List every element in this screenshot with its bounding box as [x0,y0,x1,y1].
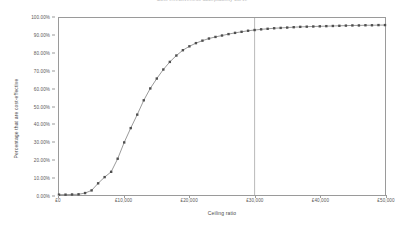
data-point-marker [90,189,92,191]
data-point-marker [221,34,223,36]
data-point-marker [260,28,262,30]
y-tick-label: 70.00% [34,68,50,73]
data-point-marker [273,27,275,29]
y-tick-label: 80.00% [34,50,50,55]
data-point-marker [71,193,73,195]
data-point-marker [325,25,327,27]
data-point-marker [188,45,190,47]
data-point-marker [64,193,66,195]
y-tick-mark [52,34,55,35]
data-point-marker [136,113,138,115]
data-point-marker [169,61,171,63]
y-tick-label: 20.00% [34,158,50,163]
y-tick-label: 30.00% [34,140,50,145]
y-tick-label: 50.00% [34,104,50,109]
data-point-marker [175,54,177,56]
data-point-marker [332,25,334,27]
chart-figure: Cost-effectiveness acceptability curve P… [0,0,404,228]
data-point-marker [195,42,197,44]
x-axis-tick-labels: £0£10,000£20,000£30,000£40,000£50,000 [58,198,386,208]
series-line [59,25,385,195]
y-tick-mark [52,178,55,179]
x-tick-mark [124,195,125,198]
x-tick-label: £0 [55,198,60,204]
data-point-marker [97,182,99,184]
y-tick-mark [52,124,55,125]
series-canvas [59,18,385,195]
data-point-marker [227,33,229,35]
y-tick-label: 40.00% [34,122,50,127]
plot-inner [59,18,385,195]
y-tick-mark [52,52,55,53]
x-axis-title: Ceiling ratio [58,210,386,217]
y-tick-mark [52,160,55,161]
x-tick-mark [386,195,387,198]
x-tick-label: £10,000 [115,198,132,204]
y-tick-label: 10.00% [34,176,50,181]
data-point-marker [149,87,151,89]
data-point-marker [306,25,308,27]
data-point-marker [123,141,125,143]
x-tick-label: £30,000 [246,198,263,204]
data-point-marker [371,24,373,26]
data-point-marker [103,176,105,178]
data-point-marker [208,37,210,39]
data-point-marker [143,99,145,101]
data-point-marker [345,24,347,26]
y-tick-label: 100.00% [31,15,50,20]
data-point-marker [201,39,203,41]
y-tick-mark [52,17,55,18]
data-point-marker [377,24,379,26]
y-tick-mark [52,70,55,71]
data-point-marker [384,24,386,26]
data-point-marker [338,25,340,27]
y-tick-label: 60.00% [34,86,50,91]
x-tick-label: £20,000 [181,198,198,204]
data-point-marker [364,24,366,26]
data-point-marker [293,26,295,28]
data-point-marker [240,31,242,33]
y-tick-mark [52,196,55,197]
data-point-marker [286,26,288,28]
x-tick-mark [189,195,190,198]
x-tick-mark [58,195,59,198]
data-point-marker [351,24,353,26]
data-point-marker [130,127,132,129]
data-point-marker [319,25,321,27]
chart-title: Cost-effectiveness acceptability curve [0,0,404,2]
data-point-marker [182,49,184,51]
data-point-marker [358,24,360,26]
x-tick-label: £40,000 [312,198,329,204]
y-tick-mark [52,142,55,143]
y-tick-mark [52,106,55,107]
y-tick-mark [52,88,55,89]
x-tick-mark [320,195,321,198]
data-point-marker [247,30,249,32]
y-tick-label: 90.00% [34,32,50,37]
data-point-marker [266,28,268,30]
series-markers [58,24,386,196]
plot-area [58,17,386,196]
data-point-marker [312,25,314,27]
data-point-marker [162,68,164,70]
data-point-marker [110,171,112,173]
data-point-marker [214,36,216,38]
data-point-marker [84,192,86,194]
data-point-marker [234,32,236,34]
data-point-marker [77,193,79,195]
x-tick-label: £50,000 [377,198,394,204]
data-point-marker [279,27,281,29]
data-point-marker [299,26,301,28]
data-point-marker [253,29,255,31]
y-axis-tick-labels: 0.00%10.00%20.00%30.00%40.00%50.00%60.00… [0,17,55,196]
data-point-marker [116,158,118,160]
data-point-marker [156,77,158,79]
x-tick-mark [255,195,256,198]
y-tick-label: 0.00% [36,194,50,199]
